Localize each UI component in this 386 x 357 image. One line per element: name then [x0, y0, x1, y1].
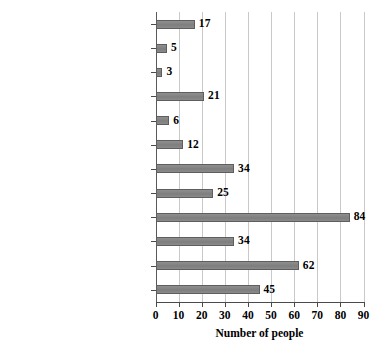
x-axis-tick-label: 80: [335, 309, 347, 321]
x-axis-tick-70: [317, 302, 318, 307]
x-axis-line: [156, 302, 364, 303]
bar-row: Family17: [156, 12, 364, 36]
x-axis-tick-label: 30: [219, 309, 231, 321]
x-axis-tick-0: [156, 302, 157, 307]
x-axis-tick-label: 10: [173, 309, 185, 321]
bar-row: Friends12: [156, 133, 364, 157]
bar-value-label: 34: [238, 162, 250, 174]
bar: [156, 140, 184, 149]
bar-row: Lectures at school6: [156, 109, 364, 133]
x-axis-title: Number of people: [156, 327, 364, 339]
bar-row: Workplace3: [156, 60, 364, 84]
bar-value-label: 34: [238, 234, 250, 246]
bar: [156, 237, 235, 246]
x-axis-tick-10: [179, 302, 180, 307]
bar-value-label: 25: [217, 186, 229, 198]
gridline-90: [364, 12, 365, 302]
bar: [156, 261, 299, 270]
bar: [156, 20, 195, 29]
x-axis-tick-label: 90: [358, 309, 370, 321]
bar-value-label: 62: [303, 259, 315, 271]
x-axis-tick-40: [248, 302, 249, 307]
x-axis-tick-80: [340, 302, 341, 307]
x-axis-tick-label: 60: [288, 309, 300, 321]
bar-row: Variety programs on . . .45: [156, 278, 364, 302]
bar: [156, 164, 235, 173]
x-axis-tick-label: 20: [196, 309, 208, 321]
plot-area: Family17Magazines5Workplace3Books21Lectu…: [156, 12, 364, 302]
x-axis-tick-label: 50: [265, 309, 277, 321]
bar-value-label: 21: [208, 89, 220, 101]
bar-row: News prorams on TV62: [156, 254, 364, 278]
bar: [156, 44, 168, 53]
x-axis-tick-label: 40: [242, 309, 254, 321]
bar-row: Real-life experience25: [156, 181, 364, 205]
x-axis-tick-label: 0: [153, 309, 159, 321]
bar-row: Magazines5: [156, 36, 364, 60]
bar: [156, 189, 214, 198]
bar: [156, 213, 350, 222]
bar: [156, 285, 260, 294]
x-axis-tick-60: [294, 302, 295, 307]
x-axis-tick-30: [225, 302, 226, 307]
x-axis-tick-20: [202, 302, 203, 307]
bar-value-label: 17: [199, 17, 211, 29]
bar-row: Newspaper34: [156, 229, 364, 253]
bar-value-label: 45: [264, 283, 276, 295]
bar-value-label: 3: [166, 65, 172, 77]
bar: [156, 92, 205, 101]
bar-value-label: 5: [171, 41, 177, 53]
bar-rows: Family17Magazines5Workplace3Books21Lectu…: [156, 12, 364, 302]
bar: [156, 116, 170, 125]
bar-chart: Family17Magazines5Workplace3Books21Lectu…: [0, 0, 386, 357]
x-axis-tick-label: 70: [312, 309, 324, 321]
bar-value-label: 84: [354, 210, 366, 222]
x-axis-tick-90: [364, 302, 365, 307]
bar-row: Internet84: [156, 205, 364, 229]
x-axis-tick-50: [271, 302, 272, 307]
bar: [156, 68, 163, 77]
bar-row: Dramas, movies34: [156, 157, 364, 181]
bar-row: Books21: [156, 84, 364, 108]
bar-value-label: 12: [187, 138, 199, 150]
bar-value-label: 6: [173, 114, 179, 126]
